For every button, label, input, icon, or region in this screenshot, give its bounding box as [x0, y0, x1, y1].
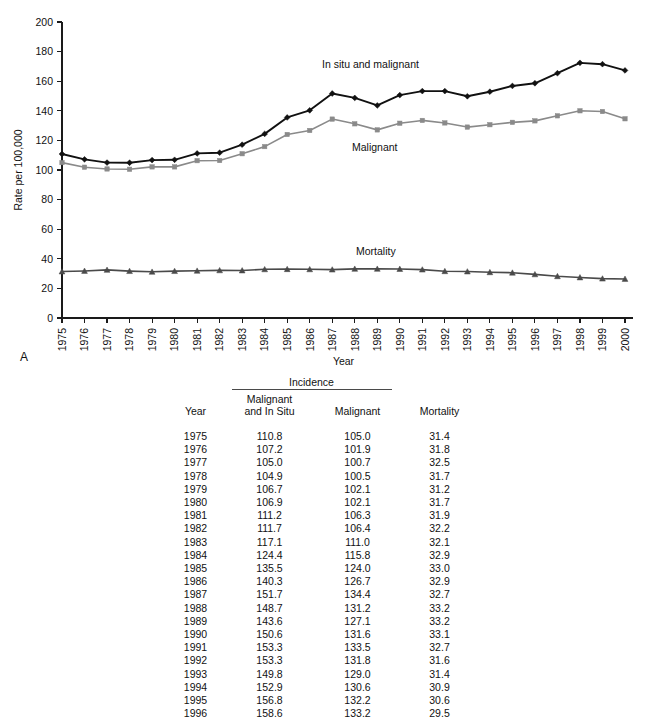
- cell-year: 1994: [168, 681, 224, 694]
- x-tick-label: 1978: [123, 328, 135, 352]
- cell-mortality: 32.7: [400, 641, 480, 654]
- table-row: 1984124.4115.832.9: [168, 549, 480, 562]
- series-line: [62, 63, 625, 163]
- cell-mortality: 31.9: [400, 509, 480, 522]
- cell-mortality: 31.4: [400, 430, 480, 443]
- x-tick-label: 1976: [78, 328, 90, 352]
- x-tick-label: 1989: [371, 328, 383, 352]
- data-point-marker: [622, 67, 628, 73]
- cell-mortality: 32.7: [400, 588, 480, 601]
- data-point-marker: [374, 103, 380, 109]
- table-row: 1982111.7106.432.2: [168, 522, 480, 535]
- series-in-situ-and-malignant: [59, 60, 628, 166]
- cell-malignant: 134.4: [316, 588, 400, 601]
- cell-year: 1982: [168, 522, 224, 535]
- y-axis-title: Rate per 100,000: [12, 129, 24, 210]
- cell-year: 1992: [168, 654, 224, 667]
- cell-malignant: 106.4: [316, 522, 400, 535]
- cell-year: 1993: [168, 668, 224, 681]
- col-header-malignant: Malignant: [316, 393, 400, 417]
- table-row: 1991153.3133.532.7: [168, 641, 480, 654]
- table-row: 1987151.7134.432.7: [168, 588, 480, 601]
- cell-year: 1989: [168, 615, 224, 628]
- cell-mortality: 31.2: [400, 483, 480, 496]
- data-point-marker: [488, 123, 492, 127]
- cell-malignant_and_in_situ: 106.9: [224, 496, 316, 509]
- group-header-spacer: [168, 376, 224, 388]
- col-header-mis-line1: Malignant: [224, 393, 316, 405]
- cell-year: 1996: [168, 707, 224, 720]
- cell-year: 1990: [168, 628, 224, 641]
- cell-malignant: 131.2: [316, 602, 400, 615]
- cell-malignant: 100.7: [316, 456, 400, 469]
- y-tick-label: 120: [35, 134, 53, 146]
- cell-year: 1987: [168, 588, 224, 601]
- data-point-marker: [397, 92, 403, 98]
- x-tick-label: 1986: [304, 328, 316, 352]
- incidence-mortality-table: Incidence Year Malignant and In Situ Mal…: [168, 376, 480, 720]
- data-point-marker: [60, 160, 64, 164]
- data-point-marker: [285, 132, 289, 136]
- data-point-marker: [240, 152, 244, 156]
- cell-malignant_and_in_situ: 105.0: [224, 456, 316, 469]
- col-header-mortality: Mortality: [400, 393, 480, 417]
- panel-letter: A: [20, 350, 28, 364]
- group-header-incidence: Incidence: [224, 376, 400, 388]
- data-point-marker: [623, 117, 627, 121]
- cell-malignant_and_in_situ: 135.5: [224, 562, 316, 575]
- data-point-marker: [149, 157, 155, 163]
- cell-year: 1979: [168, 483, 224, 496]
- line-chart: 020406080100120140160180200Rate per 100,…: [0, 0, 647, 372]
- data-point-marker: [172, 165, 176, 169]
- header-body-spacer: [168, 417, 480, 430]
- cell-malignant_and_in_situ: 158.6: [224, 707, 316, 720]
- data-point-marker: [600, 109, 604, 113]
- table-head: Incidence Year Malignant and In Situ Mal…: [168, 376, 480, 430]
- x-tick-label: 1991: [416, 328, 428, 352]
- series-malignant: [60, 109, 627, 172]
- cell-year: 1984: [168, 549, 224, 562]
- cell-malignant_and_in_situ: 106.7: [224, 483, 316, 496]
- cell-malignant_and_in_situ: 143.6: [224, 615, 316, 628]
- cell-mortality: 31.6: [400, 654, 480, 667]
- cell-year: 1991: [168, 641, 224, 654]
- table-row: 1990150.6131.633.1: [168, 628, 480, 641]
- cell-mortality: 31.7: [400, 470, 480, 483]
- data-point-marker: [105, 167, 109, 171]
- data-point-marker: [127, 167, 131, 171]
- cell-malignant_and_in_situ: 124.4: [224, 549, 316, 562]
- cell-malignant: 124.0: [316, 562, 400, 575]
- cell-malignant: 100.5: [316, 470, 400, 483]
- cell-malignant_and_in_situ: 153.3: [224, 641, 316, 654]
- x-tick-label: 2000: [619, 328, 631, 352]
- data-point-marker: [420, 118, 424, 122]
- x-tick-label: 1982: [213, 328, 225, 352]
- y-tick-label: 200: [35, 16, 53, 28]
- cell-mortality: 31.4: [400, 668, 480, 681]
- data-point-marker: [510, 83, 516, 89]
- cell-malignant_and_in_situ: 150.6: [224, 628, 316, 641]
- cell-mortality: 33.1: [400, 628, 480, 641]
- data-point-marker: [375, 128, 379, 132]
- cell-malignant: 131.8: [316, 654, 400, 667]
- data-point-marker: [353, 122, 357, 126]
- table-row: 1995156.8132.230.6: [168, 694, 480, 707]
- cell-mortality: 32.9: [400, 549, 480, 562]
- x-tick-label: 1992: [439, 328, 451, 352]
- data-point-marker: [555, 114, 559, 118]
- table-row: 1977105.0100.732.5: [168, 456, 480, 469]
- data-point-marker: [465, 125, 469, 129]
- cell-malignant: 101.9: [316, 443, 400, 456]
- cell-year: 1985: [168, 562, 224, 575]
- x-tick-label: 1983: [236, 328, 248, 352]
- data-point-marker: [82, 156, 88, 162]
- table-row: 1979106.7102.131.2: [168, 483, 480, 496]
- table-body: 1975110.8105.031.41976107.2101.931.81977…: [168, 430, 480, 720]
- cell-malignant_and_in_situ: 111.2: [224, 509, 316, 522]
- group-header-spacer-right: [400, 376, 480, 388]
- x-tick-label: 1994: [484, 328, 496, 352]
- table-row: 1993149.8129.031.4: [168, 668, 480, 681]
- table-row: 1996158.6133.229.5: [168, 707, 480, 720]
- x-tick-label: 1995: [506, 328, 518, 352]
- data-point-marker: [510, 120, 514, 124]
